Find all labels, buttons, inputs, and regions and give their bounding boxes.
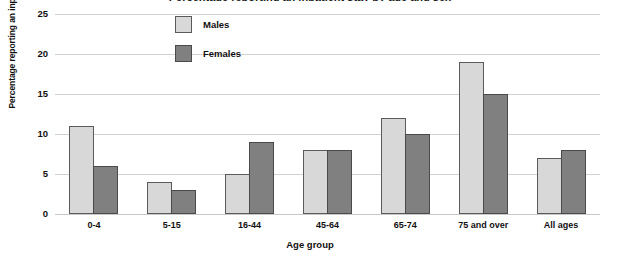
- bar-group: [522, 14, 600, 214]
- bar-males-5-15: [147, 182, 172, 214]
- legend-swatch-males-icon: [175, 16, 192, 33]
- bar-males-All-ages: [537, 158, 562, 214]
- x-tick-label: 45-64: [289, 220, 367, 230]
- legend-label-males: Males: [203, 19, 229, 30]
- y-tick-label: 15: [22, 89, 48, 99]
- legend-item-females: Females: [175, 43, 241, 63]
- x-tick-label: All ages: [522, 220, 600, 230]
- bar-females-5-15: [171, 190, 196, 214]
- y-tick-label: 5: [22, 169, 48, 179]
- x-tick-label: 65-74: [366, 220, 444, 230]
- bar-group: [366, 14, 444, 214]
- bar-females-0-4: [93, 166, 118, 214]
- bar-males-65-74: [381, 118, 406, 214]
- y-axis-title: Percentage reporting an inpatient stay: [7, 0, 17, 133]
- x-tick-label: 5-15: [133, 220, 211, 230]
- legend-swatch-females-icon: [175, 45, 192, 62]
- bar-males-0-4: [69, 126, 94, 214]
- bar-males-75-and-over: [459, 62, 484, 214]
- chart-title: Percentage reporting an inpatient stay b…: [0, 0, 620, 1]
- bar-males-16-44: [225, 174, 250, 214]
- bar-chart: Percentage reporting an inpatient stay b…: [0, 0, 620, 260]
- x-tick-label: 75 and over: [444, 220, 522, 230]
- bar-males-45-64: [303, 150, 328, 214]
- chart-legend: Males Females: [175, 14, 241, 72]
- bar-group: [55, 14, 133, 214]
- y-tick-label: 10: [22, 129, 48, 139]
- bar-group: [289, 14, 367, 214]
- y-tick-label: 25: [22, 9, 48, 19]
- bar-females-All-ages: [561, 150, 586, 214]
- legend-item-males: Males: [175, 14, 241, 34]
- x-tick-label: 16-44: [211, 220, 289, 230]
- bar-females-65-74: [405, 134, 430, 214]
- gridline: [55, 214, 600, 215]
- x-tick-label: 0-4: [55, 220, 133, 230]
- y-tick-label: 0: [22, 209, 48, 219]
- x-axis-title: Age group: [0, 239, 620, 250]
- bar-females-45-64: [327, 150, 352, 214]
- bar-females-75-and-over: [483, 94, 508, 214]
- plot-area: [55, 14, 600, 214]
- bar-females-16-44: [249, 142, 274, 214]
- y-tick-label: 20: [22, 49, 48, 59]
- legend-label-females: Females: [203, 48, 241, 59]
- bar-group: [444, 14, 522, 214]
